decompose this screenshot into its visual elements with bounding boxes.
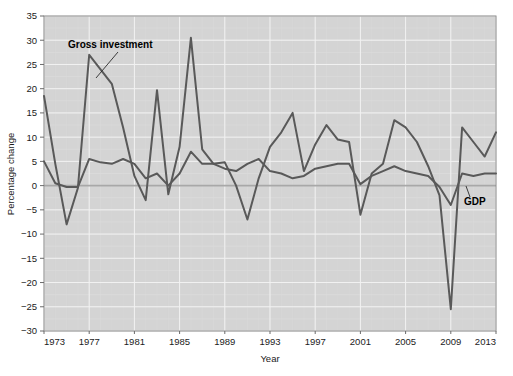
x-axis-title: Year <box>260 353 279 364</box>
x-tick-label: 2009 <box>440 336 461 347</box>
x-tick-label: 1973 <box>44 336 65 347</box>
y-tick-label: 10 <box>26 132 37 143</box>
y-axis-title: Percentage change <box>5 133 16 215</box>
y-tick-label: 25 <box>26 59 37 70</box>
y-tick-label: 15 <box>26 107 37 118</box>
x-tick-label: 1997 <box>305 336 326 347</box>
y-tick-label: 35 <box>26 10 37 21</box>
y-tick-label: 30 <box>26 35 37 46</box>
x-tick-label: 1985 <box>169 336 190 347</box>
y-tick-label: −25 <box>21 301 37 312</box>
x-tick-label: 1989 <box>214 336 235 347</box>
series-label-gdp: GDP <box>464 196 486 207</box>
chart-container: 35302520151050−5−10−15−20−25−30 19731977… <box>0 0 513 376</box>
y-tick-label: 0 <box>32 180 37 191</box>
x-tick-label: 2005 <box>395 336 416 347</box>
x-tick-label: 1981 <box>124 336 145 347</box>
x-tick-label: 2001 <box>350 336 371 347</box>
x-tick-label: 1977 <box>79 336 100 347</box>
y-tick-label: −15 <box>21 253 37 264</box>
series-label-gross-investment: Gross investment <box>68 39 153 50</box>
x-tick-label: 2013 <box>475 336 496 347</box>
y-tick-label: 20 <box>26 83 37 94</box>
x-tick-label: 1993 <box>259 336 280 347</box>
y-tick-label: −5 <box>26 204 37 215</box>
y-tick-label: −10 <box>21 228 37 239</box>
y-tick-label: −30 <box>21 325 37 336</box>
y-tick-label: −20 <box>21 277 37 288</box>
y-tick-label: 5 <box>32 156 37 167</box>
line-chart: 35302520151050−5−10−15−20−25−30 19731977… <box>0 0 513 376</box>
